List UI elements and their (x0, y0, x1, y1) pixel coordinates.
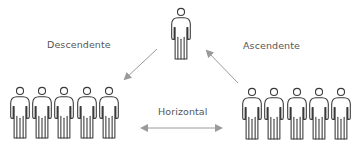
top-person-icon (172, 8, 191, 59)
ascending-label: Ascendente (243, 40, 300, 51)
descending-arrow-icon (125, 49, 157, 79)
ascending-arrow-icon (207, 51, 238, 83)
descending-label: Descendente (47, 39, 111, 50)
bottom-left-group-icon (11, 87, 119, 138)
diagram-graphics (0, 0, 361, 149)
horizontal-label: Horizontal (158, 106, 208, 117)
bottom-right-group-icon (243, 88, 351, 139)
communication-diagram: Descendente Ascendente Horizontal (0, 0, 361, 149)
